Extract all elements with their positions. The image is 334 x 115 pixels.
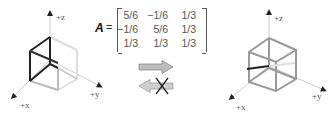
matrix-cell: 1/3 <box>142 37 168 49</box>
matrix-brackets: 5/6 −1/6 1/3 −1/6 5/6 1/3 1/3 1/3 1/3 <box>117 8 207 52</box>
matrix-symbol: A <box>95 21 104 35</box>
inverse-arrow-crossed-icon <box>138 77 174 95</box>
right-x-axis-label: +x <box>236 102 246 112</box>
left-y-axis-label: +y <box>90 89 100 99</box>
transformation-matrix: A = 5/6 −1/6 1/3 −1/6 5/6 1/3 1/3 1/3 1/… <box>95 6 205 54</box>
matrix-cell: 1/3 <box>170 23 196 35</box>
right-y-axis-label: +y <box>312 91 322 101</box>
matrix-cell: 5/6 <box>112 9 138 21</box>
matrix-cell: 1/3 <box>170 37 196 49</box>
matrix-cell: 1/3 <box>170 9 196 21</box>
forward-arrow-icon <box>138 60 174 74</box>
left-x-axis-label: +x <box>20 100 30 110</box>
right-z-axis-label: +z <box>274 13 283 23</box>
matrix-cell: 1/3 <box>112 37 138 49</box>
matrix-cell: −1/6 <box>142 9 168 21</box>
matrix-cell: −1/6 <box>112 23 138 35</box>
left-z-axis-label: +z <box>56 12 65 22</box>
matrix-cell: 5/6 <box>142 23 168 35</box>
